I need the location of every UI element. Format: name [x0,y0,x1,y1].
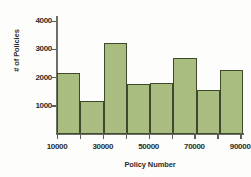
bar-bin-3 [104,43,127,134]
bar-bin-8 [220,70,243,134]
x-tick-mark-90000 [240,133,241,139]
x-tick-label-10000: 10000 [34,142,80,151]
y-tick-label-3000: 3000 [24,45,52,53]
x-tick-mark-30000 [103,133,104,139]
x-tick-mark-60000 [172,133,173,139]
x-tick-label-70000: 70000 [171,142,217,151]
bar-bin-6 [173,58,196,134]
y-tick-label-2000: 2000 [24,74,52,82]
y-tick-label-1000: 1000 [24,102,52,110]
x-tick-label-30000: 30000 [80,142,126,151]
x-tick-mark-70000 [194,133,195,139]
histogram-figure: # of Policies 4000 3000 2000 1000 10000 … [0,0,251,177]
y-axis-label: # of Policies [12,11,21,91]
bar-bin-4 [127,84,150,134]
x-tick-label-50000: 50000 [126,142,172,151]
bar-bin-5 [150,83,173,134]
bar-bin-7 [197,90,220,134]
bar-bin-1 [57,73,80,134]
x-tick-mark-50000 [149,133,150,139]
x-tick-mark-10000 [57,133,58,139]
bar-bin-2 [80,101,103,134]
x-tick-label-90000: 90000 [217,142,251,151]
x-tick-mark-40000 [126,133,127,139]
y-tick-label-4000: 4000 [24,17,52,25]
x-tick-mark-80000 [217,133,218,139]
x-tick-mark-20000 [80,133,81,139]
x-axis-label: Policy Number [56,160,244,169]
plot-area [57,16,243,134]
